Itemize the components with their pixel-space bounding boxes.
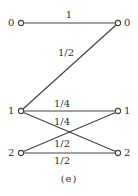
edge-label-2-2: 1/2 — [54, 156, 70, 166]
node-right-1 — [115, 108, 120, 113]
edge-label-2-1: 1/2 — [54, 139, 70, 149]
node-right-2 — [115, 150, 120, 155]
node-right-0 — [115, 20, 120, 25]
edge-label-1-2: 1/4 — [54, 117, 70, 127]
edge-label-0-0: 1 — [66, 10, 72, 20]
node-left-1 — [18, 108, 23, 113]
node-left-2 — [18, 150, 23, 155]
node-label-left-1: 1 — [8, 106, 14, 116]
node-label-left-0: 0 — [8, 18, 14, 28]
node-label-right-1: 1 — [124, 106, 130, 116]
node-label-right-0: 0 — [124, 18, 130, 28]
edge-1-to-0 — [23, 25, 116, 109]
figure-caption: (e) — [61, 173, 78, 184]
node-label-left-2: 2 — [8, 148, 14, 158]
edge-label-1-0: 1/2 — [58, 48, 74, 58]
edge-label-1-1: 1/4 — [54, 99, 70, 109]
node-label-right-2: 2 — [124, 148, 130, 158]
node-left-0 — [18, 20, 23, 25]
